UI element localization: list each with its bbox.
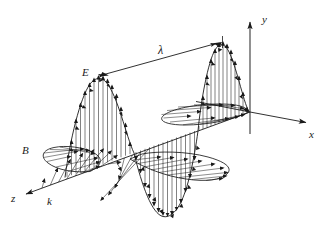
axis-label-y: y xyxy=(262,14,267,25)
wave-vector-label-k: k xyxy=(47,196,52,207)
axis-label-z: z xyxy=(11,193,15,204)
electric-field-label-e: E xyxy=(82,67,89,78)
axis-z-k xyxy=(26,112,250,194)
axis-x xyxy=(196,102,306,123)
e-field-crest-right xyxy=(198,43,249,132)
em-wave-figure: y x z k E B λ xyxy=(0,0,326,230)
axis-label-x: x xyxy=(309,129,314,140)
magnetic-field-label-b: B xyxy=(22,145,29,156)
wavelength-label-lambda: λ xyxy=(158,44,163,56)
